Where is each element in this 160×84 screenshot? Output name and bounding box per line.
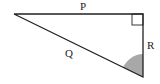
triangle-diagram: P Q R bbox=[0, 0, 160, 84]
shaded-angle bbox=[123, 54, 143, 77]
label-q: Q bbox=[65, 47, 73, 59]
triangle bbox=[14, 14, 143, 77]
label-r: R bbox=[147, 39, 155, 51]
right-angle-marker bbox=[132, 14, 143, 25]
label-p: P bbox=[80, 0, 86, 12]
